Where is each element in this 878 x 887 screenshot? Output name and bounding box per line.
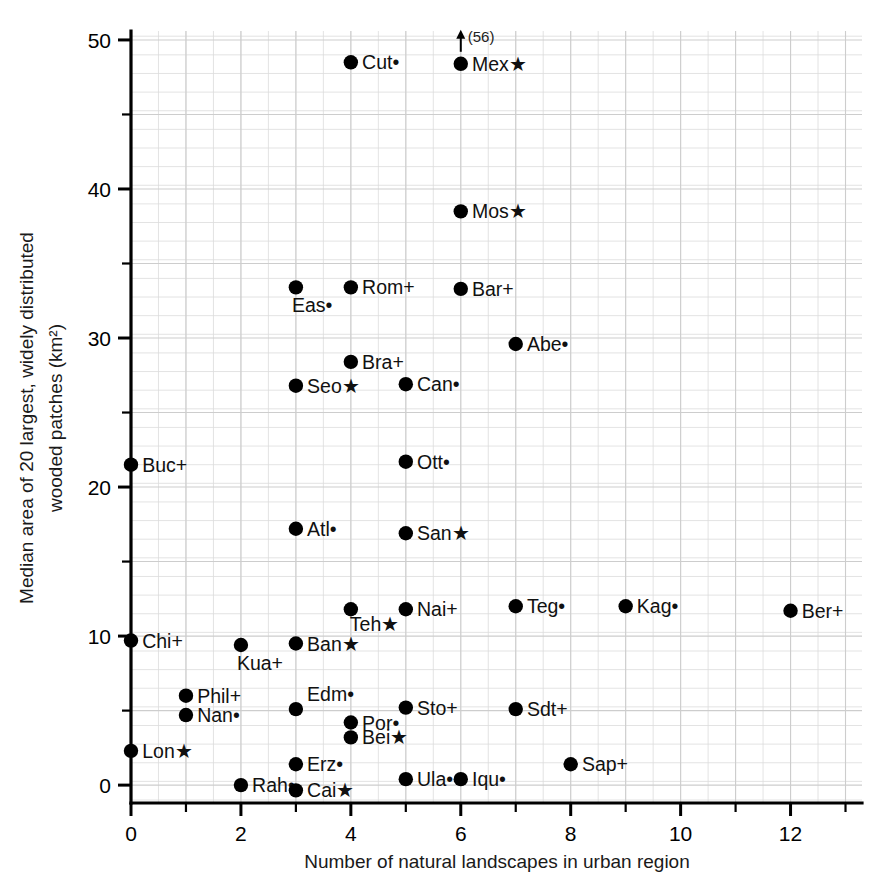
point-label: Sto+ bbox=[417, 697, 458, 719]
x-tick-label: 2 bbox=[235, 822, 247, 845]
point-marker bbox=[234, 638, 248, 652]
point-marker bbox=[399, 455, 413, 469]
point-label: San★ bbox=[417, 522, 470, 544]
point-marker bbox=[179, 688, 193, 702]
point-label: Eas• bbox=[292, 294, 333, 316]
point-label: Cai★ bbox=[307, 779, 354, 801]
point-label: Abe• bbox=[527, 333, 569, 355]
point-marker bbox=[454, 772, 468, 786]
x-axis-title: Number of natural landscapes in urban re… bbox=[304, 851, 690, 872]
point-label: Rom+ bbox=[362, 276, 415, 298]
y-tick-label: 20 bbox=[88, 476, 111, 499]
point-annotation: (56) bbox=[468, 28, 495, 45]
point-marker bbox=[124, 633, 138, 647]
point-label: Mos★ bbox=[472, 200, 527, 222]
point-marker bbox=[454, 57, 468, 71]
point-label: Lon★ bbox=[142, 740, 193, 762]
point-label: Seo★ bbox=[307, 375, 360, 397]
point-marker bbox=[618, 599, 632, 613]
x-tick-label: 10 bbox=[669, 822, 692, 845]
point-marker bbox=[783, 604, 797, 618]
point-marker bbox=[509, 702, 523, 716]
point-label: Bar+ bbox=[472, 278, 514, 300]
y-tick-label: 30 bbox=[88, 327, 111, 350]
x-tick-label: 8 bbox=[565, 822, 577, 845]
point-marker bbox=[289, 280, 303, 294]
x-tick-label: 12 bbox=[779, 822, 802, 845]
point-label: Chi+ bbox=[142, 630, 183, 652]
point-marker bbox=[509, 337, 523, 351]
y-axis-title-line2: wooded patches (km²) bbox=[45, 324, 66, 513]
point-marker bbox=[289, 702, 303, 716]
point-label: Ban★ bbox=[307, 633, 360, 655]
point-marker bbox=[124, 457, 138, 471]
x-tick-label: 6 bbox=[455, 822, 467, 845]
point-label: Mex★ bbox=[472, 53, 527, 75]
point-label: Buc+ bbox=[142, 454, 187, 476]
y-tick-label: 50 bbox=[88, 29, 111, 52]
point-marker bbox=[563, 757, 577, 771]
point-label: Ula• bbox=[417, 768, 453, 790]
point-marker bbox=[179, 708, 193, 722]
y-tick-label: 10 bbox=[88, 625, 111, 648]
point-marker bbox=[289, 636, 303, 650]
point-marker bbox=[344, 715, 358, 729]
point-label: Teg• bbox=[527, 595, 565, 617]
point-label: Bei★ bbox=[362, 726, 408, 748]
point-marker bbox=[344, 730, 358, 744]
point-label: Ott• bbox=[417, 451, 450, 473]
point-label: Sdt+ bbox=[527, 698, 568, 720]
point-marker bbox=[124, 744, 138, 758]
point-marker bbox=[399, 526, 413, 540]
point-marker bbox=[399, 700, 413, 714]
x-tick-label: 0 bbox=[125, 822, 137, 845]
point-marker bbox=[289, 757, 303, 771]
point-label: Nai+ bbox=[417, 598, 458, 620]
point-label: Kag• bbox=[637, 595, 679, 617]
plot-canvas: 01020304050 024681012 Cut•Mex★(56)Mos★Ea… bbox=[0, 0, 878, 887]
point-marker bbox=[509, 599, 523, 613]
point-marker bbox=[454, 204, 468, 218]
point-marker bbox=[399, 377, 413, 391]
point-label: Bra+ bbox=[362, 351, 404, 373]
point-marker bbox=[344, 355, 358, 369]
point-label: Iqu• bbox=[472, 768, 506, 790]
point-marker bbox=[399, 772, 413, 786]
point-marker bbox=[289, 783, 303, 797]
point-marker bbox=[454, 282, 468, 296]
point-marker bbox=[289, 522, 303, 536]
point-label: Nan• bbox=[197, 704, 240, 726]
point-label: Sap+ bbox=[582, 753, 628, 775]
y-tick-label: 40 bbox=[88, 178, 111, 201]
point-label: Atl• bbox=[307, 518, 337, 540]
y-axis-title-line1: Median area of 20 largest, widely distri… bbox=[16, 232, 37, 604]
y-tick-label: 0 bbox=[99, 774, 111, 797]
x-tick-label: 4 bbox=[345, 822, 357, 845]
point-label: Can• bbox=[417, 373, 460, 395]
point-marker bbox=[399, 602, 413, 616]
point-label: Edm• bbox=[307, 683, 354, 705]
point-label: Cut• bbox=[362, 51, 399, 73]
point-marker bbox=[344, 280, 358, 294]
point-label: Erz• bbox=[307, 753, 343, 775]
point-marker bbox=[344, 55, 358, 69]
point-label: Ber+ bbox=[802, 600, 844, 622]
point-marker bbox=[289, 379, 303, 393]
scatter-plot-figure: 01020304050 024681012 Cut•Mex★(56)Mos★Ea… bbox=[0, 0, 878, 887]
point-marker bbox=[234, 778, 248, 792]
point-label: Kua+ bbox=[237, 652, 283, 674]
point-label: Rah• bbox=[252, 774, 295, 796]
